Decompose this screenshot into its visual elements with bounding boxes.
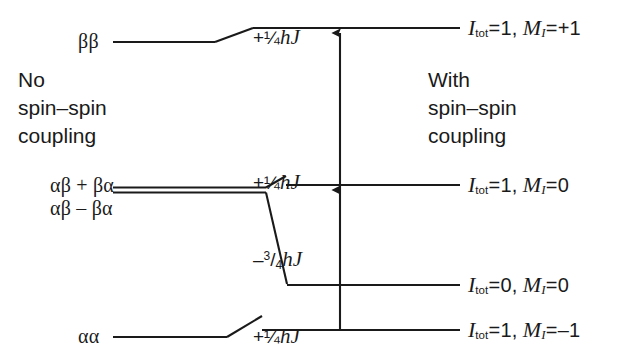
comma-2: ,: [512, 174, 518, 196]
energy-shift-fraction-top: ¼: [264, 27, 280, 48]
equals-sign-i-4: =: [488, 319, 500, 341]
caption-with-coupling-line1: With: [428, 66, 517, 94]
quantum-label-triplet-minus1: Itot=1, MI=–1: [468, 319, 580, 341]
energy-shift-j-middle: J: [290, 170, 299, 194]
value-i-tot-4: 1: [501, 319, 512, 341]
caption-with-coupling-line3: coupling: [428, 122, 517, 150]
caption-no-coupling-line2: spin–spin: [18, 94, 107, 122]
quantum-label-singlet-0: Itot=0, MI=0: [468, 274, 569, 296]
energy-shift-fraction-middle: ¼: [264, 172, 280, 193]
energy-shift-h-top: h: [280, 25, 291, 49]
state-label-alpha-alpha: αα: [78, 326, 99, 346]
state-label-symmetric-combination: αβ + βα: [50, 175, 114, 195]
symbol-m-i-4: M: [523, 317, 541, 342]
equals-sign-i-2: =: [488, 174, 500, 196]
equals-sign-i-1: =: [488, 17, 500, 39]
subscript-tot-2: tot: [475, 184, 488, 196]
quantum-label-triplet-0: Itot=1, MI=0: [468, 174, 569, 196]
energy-shift-fraction-bottom: ¼: [264, 326, 280, 347]
equals-sign-m-4: =: [546, 319, 558, 341]
energy-shift-sign-middle: +: [253, 172, 264, 193]
caption-no-coupling: No spin–spin coupling: [18, 66, 107, 150]
comma-3: ,: [512, 274, 518, 296]
value-i-tot-1: 1: [501, 17, 512, 39]
connector-beta-beta-to-triplet-plus1: [215, 28, 253, 42]
state-label-beta-beta: ββ: [78, 31, 99, 51]
symbol-m-i-1: M: [523, 15, 541, 40]
comma-1: ,: [512, 17, 518, 39]
value-m-i-1: +1: [558, 17, 581, 39]
value-i-tot-2: 1: [501, 174, 512, 196]
figure-canvas: ββ αβ + βα αβ – βα αα No spin–spin coupl…: [0, 0, 619, 362]
equals-sign-m-2: =: [546, 174, 558, 196]
energy-shift-singlet: –3/4hJ: [253, 249, 302, 270]
symbol-m-i-3: M: [523, 272, 541, 297]
state-label-antisymmetric-combination: αβ – βα: [50, 198, 113, 218]
energy-shift-h-bottom: h: [280, 324, 291, 348]
caption-with-coupling-line2: spin–spin: [428, 94, 517, 122]
energy-shift-sign-singlet: –: [253, 249, 264, 270]
energy-shift-j-top: J: [290, 25, 299, 49]
energy-shift-j-singlet: J: [293, 247, 302, 271]
subscript-tot-3: tot: [475, 284, 488, 296]
subscript-tot-1: tot: [475, 27, 488, 39]
comma-4: ,: [512, 319, 518, 341]
value-m-i-2: 0: [558, 174, 569, 196]
energy-shift-sign-bottom: +: [253, 326, 264, 347]
value-m-i-4: –1: [558, 319, 580, 341]
value-i-tot-3: 0: [501, 274, 512, 296]
energy-shift-h-middle: h: [280, 170, 291, 194]
energy-shift-triplet-minus1: +¼hJ: [253, 326, 300, 347]
energy-shift-sign-top: +: [253, 27, 264, 48]
equals-sign-m-3: =: [546, 274, 558, 296]
value-m-i-3: 0: [558, 274, 569, 296]
quantum-label-triplet-plus1: Itot=1, MI=+1: [468, 17, 581, 39]
energy-shift-triplet-0: +¼hJ: [253, 172, 300, 193]
caption-no-coupling-line3: coupling: [18, 122, 107, 150]
energy-shift-j-bottom: J: [290, 324, 299, 348]
equals-sign-m-1: =: [546, 17, 558, 39]
caption-with-coupling: With spin–spin coupling: [428, 66, 517, 150]
symbol-m-i-2: M: [523, 172, 541, 197]
subscript-tot-4: tot: [475, 329, 488, 341]
caption-no-coupling-line1: No: [18, 66, 107, 94]
equals-sign-i-3: =: [488, 274, 500, 296]
energy-shift-triplet-plus1: +¼hJ: [253, 27, 300, 48]
energy-shift-h-singlet: h: [282, 247, 293, 271]
